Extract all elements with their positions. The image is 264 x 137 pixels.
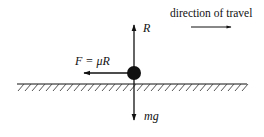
weight-label: mg <box>144 109 159 123</box>
hatch-mark <box>46 84 52 91</box>
hatch-mark <box>221 84 227 91</box>
hatch-mark <box>53 84 59 91</box>
hatch-mark <box>95 84 101 91</box>
hatch-mark <box>130 84 136 91</box>
hatch-mark <box>32 84 38 91</box>
force-diagram: R F = μR mg direction of travel <box>0 0 264 137</box>
hatch-mark <box>165 84 171 91</box>
diagram-svg: R F = μR mg direction of travel <box>0 0 264 137</box>
hatch-mark <box>74 84 80 91</box>
hatch-mark <box>207 84 213 91</box>
hatch-mark <box>144 84 150 91</box>
particle <box>127 66 141 80</box>
hatch-mark <box>67 84 73 91</box>
hatch-mark <box>186 84 192 91</box>
hatch-mark <box>214 84 220 91</box>
hatch-mark <box>60 84 66 91</box>
hatch-mark <box>242 84 248 91</box>
hatch-mark <box>158 84 164 91</box>
hatch-mark <box>39 84 45 91</box>
hatch-mark <box>193 84 199 91</box>
hatch-mark <box>137 84 143 91</box>
hatch-mark <box>235 84 241 91</box>
hatch-mark <box>200 84 206 91</box>
ground-surface <box>17 84 248 91</box>
hatch-mark <box>172 84 178 91</box>
hatch-mark <box>123 84 129 91</box>
hatch-mark <box>88 84 94 91</box>
hatch-mark <box>18 84 24 91</box>
hatch-mark <box>25 84 31 91</box>
hatch-mark <box>102 84 108 91</box>
friction-label: F = μR <box>74 54 110 68</box>
ground-hatching <box>18 84 248 91</box>
reaction-label: R <box>142 21 151 35</box>
hatch-mark <box>81 84 87 91</box>
hatch-mark <box>109 84 115 91</box>
friction-label-text: F = μR <box>74 54 110 68</box>
direction-of-travel-label: direction of travel <box>170 7 252 19</box>
hatch-mark <box>151 84 157 91</box>
hatch-mark <box>116 84 122 91</box>
hatch-mark <box>228 84 234 91</box>
hatch-mark <box>179 84 185 91</box>
